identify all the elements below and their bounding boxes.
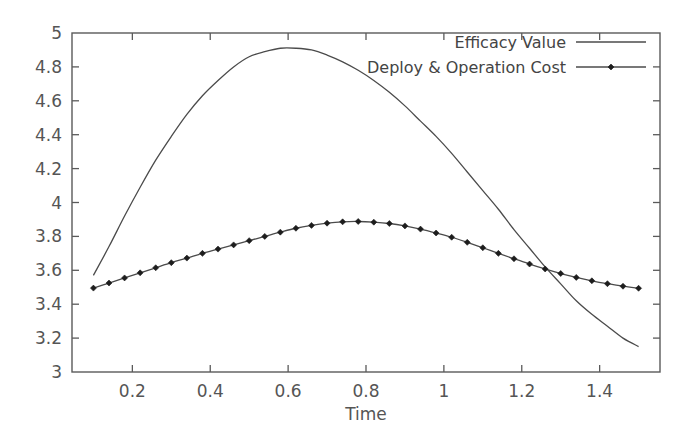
- x-tick-label: 1.2: [508, 381, 535, 401]
- y-tick-label: 4.8: [35, 57, 62, 77]
- x-tick-label: 0.6: [275, 381, 302, 401]
- legend-label: Efficacy Value: [455, 33, 566, 52]
- chart-container: 33.23.43.63.844.24.44.64.85 0.20.40.60.8…: [0, 0, 689, 448]
- x-tick-label: 0.2: [119, 381, 146, 401]
- y-tick-label: 3.6: [35, 260, 62, 280]
- legend-label: Deploy & Operation Cost: [367, 58, 566, 77]
- y-tick-label: 3.2: [35, 328, 62, 348]
- x-tick-label: 1.4: [586, 381, 613, 401]
- y-tick-label: 4: [51, 193, 62, 213]
- line-chart: 33.23.43.63.844.24.44.64.85 0.20.40.60.8…: [0, 0, 689, 448]
- x-tick-label: 0.4: [197, 381, 224, 401]
- y-tick-label: 3.8: [35, 226, 62, 246]
- x-axis-title: Time: [344, 404, 387, 424]
- y-tick-label: 4.2: [35, 159, 62, 179]
- y-tick-label: 3.4: [35, 294, 62, 314]
- y-tick-label: 3: [51, 362, 62, 382]
- y-tick-label: 5: [51, 23, 62, 43]
- y-tick-label: 4.4: [35, 125, 62, 145]
- y-tick-label: 4.6: [35, 91, 62, 111]
- x-tick-label: 1: [438, 381, 449, 401]
- x-tick-label: 0.8: [352, 381, 379, 401]
